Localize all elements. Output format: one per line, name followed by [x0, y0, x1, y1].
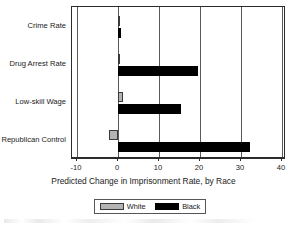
- y-axis-labels: Crime Rate Drug Arrest Rate Low-skill Wa…: [0, 6, 66, 158]
- scan-artifact: [4, 219, 283, 223]
- x-tick-label-10: 10: [154, 163, 162, 172]
- plot-area: [71, 6, 285, 158]
- legend-entry-white: White: [100, 202, 146, 211]
- bar-crime-rate-white: [118, 16, 120, 26]
- bar-republican-control-black: [118, 142, 250, 152]
- legend-label-black: Black: [182, 202, 200, 211]
- x-axis-title: Predicted Change in Imprisonment Rate, b…: [0, 176, 287, 186]
- x-tick-label-30: 30: [236, 163, 244, 172]
- x-tick-mark-30: [240, 158, 241, 161]
- bar-drug-arrest-rate-white: [118, 54, 120, 64]
- gridline-neg10: [77, 7, 78, 157]
- y-axis-label-republican-control: Republican Control: [1, 136, 66, 144]
- legend-swatch-white-icon: [100, 203, 124, 210]
- bar-republican-control-white: [109, 130, 118, 140]
- bar-low-skill-wage-black: [118, 104, 181, 114]
- x-tick-label-neg10: -10: [71, 163, 82, 172]
- legend-entry-black: Black: [155, 202, 200, 211]
- x-tick-label-0: 0: [115, 163, 119, 172]
- chart-legend: White Black: [94, 199, 206, 214]
- imprisonment-rate-bar-chart: Crime Rate Drug Arrest Rate Low-skill Wa…: [0, 0, 287, 225]
- bar-drug-arrest-rate-black: [118, 66, 198, 76]
- gridline-20: [200, 7, 201, 157]
- gridline-10: [159, 7, 160, 157]
- bar-crime-rate-black: [118, 28, 121, 38]
- legend-label-white: White: [127, 202, 146, 211]
- gridline-30: [241, 7, 242, 157]
- y-axis-label-low-skill-wage: Low-skill Wage: [15, 98, 66, 106]
- gridline-40: [282, 7, 283, 157]
- x-axis-line: [71, 158, 285, 159]
- x-tick-label-40: 40: [277, 163, 285, 172]
- x-tick-mark-neg10: [76, 158, 77, 161]
- x-tick-label-20: 20: [195, 163, 203, 172]
- x-tick-mark-40: [281, 158, 282, 161]
- bar-low-skill-wage-white: [118, 92, 123, 102]
- x-tick-mark-0: [117, 158, 118, 161]
- x-tick-mark-10: [158, 158, 159, 161]
- y-axis-label-crime-rate: Crime Rate: [28, 22, 66, 30]
- x-tick-mark-20: [199, 158, 200, 161]
- y-axis-label-drug-arrest-rate: Drug Arrest Rate: [9, 60, 66, 68]
- legend-swatch-black-icon: [155, 203, 179, 210]
